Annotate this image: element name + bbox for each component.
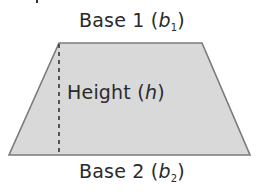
- base2-variable: b: [158, 160, 170, 182]
- height-label-text: Height (: [67, 81, 145, 103]
- base2-label-text: Base 2 (: [79, 160, 158, 182]
- height-label: Height (h): [67, 83, 165, 102]
- base1-label-close: ): [177, 9, 185, 31]
- height-label-close: ): [157, 81, 165, 103]
- base2-label: Base 2 (b2): [79, 162, 185, 181]
- base1-label-text: Base 1 (: [79, 9, 158, 31]
- base1-label: Base 1 (b1): [79, 11, 185, 30]
- height-variable: h: [145, 81, 157, 103]
- base1-variable: b: [158, 9, 170, 31]
- base2-label-close: ): [177, 160, 185, 182]
